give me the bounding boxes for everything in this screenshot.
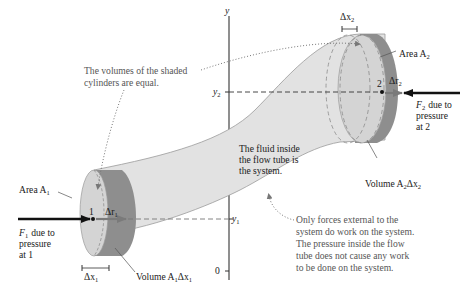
svg-text:the flow tube is: the flow tube is bbox=[239, 154, 299, 165]
annotation-system: The fluid inside the flow tube is the sy… bbox=[239, 143, 300, 176]
force-1-text-line2: pressure bbox=[19, 238, 51, 249]
svg-text:cylinders are equal.: cylinders are equal. bbox=[84, 77, 159, 88]
y1-label: y1 bbox=[231, 213, 240, 225]
point-2-dot bbox=[380, 90, 384, 94]
point-1-dot bbox=[91, 217, 95, 221]
dx2-label: Δx2 bbox=[340, 11, 354, 23]
force-2-text-line2: pressure bbox=[416, 110, 448, 121]
svg-text:to be done on the system.: to be done on the system. bbox=[296, 262, 394, 273]
area-1-label: Area A1 bbox=[19, 184, 50, 196]
volume-1-label: Volume A1Δx1 bbox=[136, 271, 192, 283]
y-axis-label: y bbox=[224, 5, 230, 16]
force-1-text-line3: at 1 bbox=[19, 249, 33, 260]
svg-text:tube does not cause any work: tube does not cause any work bbox=[296, 250, 409, 261]
y2-label: y2 bbox=[212, 86, 221, 98]
svg-text:the system.: the system. bbox=[239, 165, 282, 176]
flow-tube-diagram: y 0 y1 y2 1 2 Δr1 Δr2 Δx1 Δx2 Area A1 bbox=[0, 0, 471, 296]
svg-text:The volumes of the shaded: The volumes of the shaded bbox=[84, 65, 188, 76]
force-2-text-line3: at 2 bbox=[416, 121, 430, 132]
annotation-external-forces: Only forces external to the system do wo… bbox=[269, 196, 414, 273]
dx1-label: Δx1 bbox=[84, 271, 98, 283]
point-2-number: 2 bbox=[377, 78, 382, 89]
svg-text:The pressure inside the flow: The pressure inside the flow bbox=[296, 238, 405, 249]
point-1-number: 1 bbox=[89, 206, 94, 217]
origin-label: 0 bbox=[215, 265, 220, 276]
displacement-label-2: Δr2 bbox=[389, 75, 402, 87]
svg-text:The fluid inside: The fluid inside bbox=[239, 143, 300, 154]
svg-text:system do work on the system.: system do work on the system. bbox=[296, 226, 414, 237]
volume-2-label: Volume A2Δx2 bbox=[365, 178, 421, 190]
svg-text:Only forces external to the: Only forces external to the bbox=[296, 214, 398, 225]
area-2-label: Area A2 bbox=[399, 48, 430, 60]
